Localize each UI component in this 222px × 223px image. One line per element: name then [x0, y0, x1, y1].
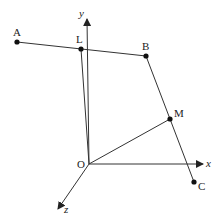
label-a: A: [13, 26, 21, 38]
label-c: C: [198, 180, 205, 192]
point-m: [167, 116, 172, 121]
label-b: B: [142, 40, 149, 52]
point-b: [143, 53, 148, 58]
point-a: [14, 39, 19, 44]
z-axis: [58, 164, 89, 209]
label-z-axis: z: [63, 203, 69, 215]
segment-om: [89, 119, 170, 164]
label-x-axis: x: [205, 157, 211, 169]
point-l: [78, 46, 83, 51]
point-c: [191, 179, 196, 184]
label-l: L: [76, 33, 83, 45]
label-origin: O: [77, 158, 85, 170]
coordinate-diagram: A L B M C O y x z: [0, 0, 222, 223]
label-y-axis: y: [78, 7, 84, 19]
label-m: M: [174, 107, 184, 119]
